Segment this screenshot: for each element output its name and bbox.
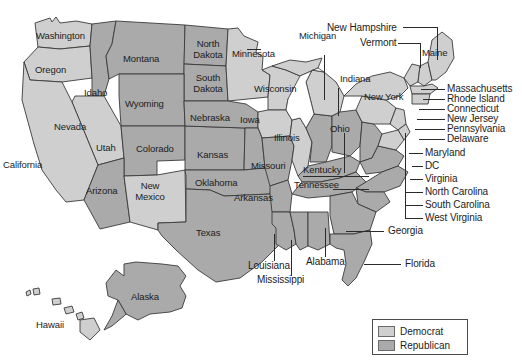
state-shape-maryland — [378, 130, 404, 150]
callout-label-south-carolina: South Carolina — [425, 199, 490, 210]
leader-vermont-h — [398, 43, 420, 44]
state-label-indiana: Indiana — [340, 74, 370, 85]
leader-ohio-v — [344, 133, 345, 173]
callout-label-dc: DC — [425, 160, 439, 171]
callout-label-virginia: Virginia — [425, 173, 457, 184]
leader-maryland — [409, 153, 423, 154]
callout-label-delaware: Delaware — [447, 133, 488, 144]
legend-label-democrat: Democrat — [400, 326, 443, 337]
leader-west-virginia-v — [405, 133, 406, 218]
leader-rhode-island — [423, 99, 445, 100]
state-shape-hawaii-5 — [76, 312, 84, 320]
callout-label-new-hampshire: New Hampshire — [327, 22, 397, 33]
callout-label-north-carolina: North Carolina — [425, 186, 488, 197]
state-label-hawaii: Hawaii — [36, 320, 64, 331]
leader-michigan — [324, 55, 325, 100]
state-label-missouri: Missouri — [251, 161, 286, 172]
callout-label-georgia: Georgia — [388, 225, 423, 236]
legend-row-democrat: Democrat — [378, 324, 462, 338]
legend-swatch-republican-icon — [378, 340, 395, 351]
leader-louisiana — [274, 234, 275, 261]
state-shape-arkansas — [270, 180, 292, 212]
leader-connecticut — [419, 109, 445, 110]
leader-new-hampshire-v — [437, 27, 438, 60]
state-label-wyoming: Wyoming — [125, 99, 164, 110]
state-label-utah: Utah — [96, 143, 116, 154]
state-shape-hawaii-2 — [33, 288, 40, 295]
leader-delaware — [419, 139, 445, 140]
state-label-idaho: Idaho — [84, 88, 107, 99]
state-label-kansas: Kansas — [197, 150, 228, 161]
state-label-illinois: Illinois — [274, 133, 300, 144]
leader-tennessee-h — [333, 189, 369, 190]
leader-alabama — [325, 228, 326, 257]
leader-vermont-v — [420, 43, 421, 68]
leader-west-virginia — [405, 218, 423, 219]
legend-label-republican: Republican — [400, 340, 450, 351]
leader-georgia — [346, 231, 384, 232]
state-label-iowa: Iowa — [240, 115, 260, 126]
leader-pennsylvania — [415, 129, 445, 130]
leader-massachusetts — [421, 89, 445, 90]
state-label-north-dakota: North Dakota — [189, 39, 227, 60]
legend-row-republican: Republican — [378, 338, 462, 352]
state-shape-hawaii-4 — [64, 306, 74, 314]
state-label-arkansas: Arkansas — [234, 193, 273, 204]
state-label-maine: Maine — [422, 48, 447, 59]
state-label-oklahoma: Oklahoma — [195, 178, 238, 189]
callout-label-west-virginia: West Virginia — [425, 212, 482, 223]
state-label-colorado: Colorado — [136, 144, 174, 155]
leader-south-carolina — [405, 205, 423, 206]
state-label-nevada: Nevada — [54, 122, 86, 133]
leader-indiana — [338, 88, 339, 116]
state-shape-hawaii-6 — [80, 318, 100, 340]
state-shape-montana — [106, 21, 185, 79]
leader-kentucky-h — [303, 176, 369, 177]
state-label-south-dakota: South Dakota — [189, 73, 227, 94]
state-shape-hawaii-3 — [52, 298, 61, 305]
leader-north-carolina — [405, 192, 423, 193]
state-label-california: California — [3, 160, 42, 171]
state-label-texas: Texas — [196, 228, 220, 239]
state-label-alaska: Alaska — [131, 292, 159, 303]
callout-label-louisiana: Louisiana — [248, 260, 290, 271]
leader-dc — [412, 166, 423, 167]
state-label-montana: Montana — [123, 54, 159, 65]
us-election-map-page: Washington Oregon Idaho Montana North Da… — [0, 0, 522, 363]
leader-new-hampshire-h — [403, 27, 437, 28]
callout-label-mississippi: Mississippi — [257, 274, 304, 285]
leader-virginia — [410, 179, 423, 180]
leader-new-jersey — [417, 119, 445, 120]
state-label-kentucky: Kentucky — [303, 165, 341, 176]
state-label-ohio: Ohio — [330, 124, 350, 135]
map-legend: Democrat Republican — [372, 319, 468, 355]
leader-florida — [364, 264, 401, 265]
state-shape-vermont — [404, 64, 420, 86]
state-label-oregon: Oregon — [35, 65, 66, 76]
state-label-wisconsin: Wisconsin — [254, 84, 296, 95]
state-shape-alabama — [308, 212, 330, 250]
state-label-washington: Washington — [36, 31, 85, 42]
state-label-arizona: Arizona — [86, 186, 118, 197]
state-shape-hawaii-1 — [26, 290, 31, 296]
state-label-new-york: New York — [364, 92, 403, 103]
state-label-new-mexico: New Mexico — [131, 181, 169, 202]
leader-mississippi — [291, 240, 292, 276]
legend-swatch-democrat-icon — [378, 326, 395, 337]
state-label-nebraska: Nebraska — [190, 113, 230, 124]
leader-minnesota — [247, 49, 261, 50]
callout-label-florida: Florida — [405, 258, 435, 269]
state-label-minnesota: Minnesota — [232, 49, 275, 60]
callout-label-maryland: Maryland — [425, 147, 465, 158]
callout-label-alabama: Alabama — [306, 256, 345, 267]
callout-label-vermont: Vermont — [360, 37, 397, 48]
state-shape-colorado — [185, 126, 245, 170]
